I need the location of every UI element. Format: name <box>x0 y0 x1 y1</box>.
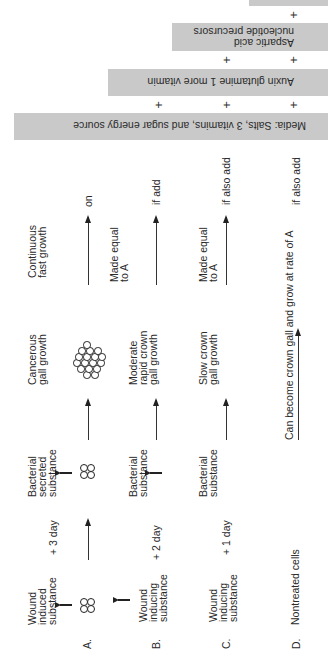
row-c-condition: if also add <box>221 157 231 205</box>
row-c-result-label: Slow crown gall growth <box>198 331 218 385</box>
text-line: fast growth <box>37 225 47 278</box>
plus-sign: + <box>287 99 300 111</box>
aspartic-box: Aspartic acid nucleotide precursors <box>172 23 328 51</box>
plus-sign: + <box>152 99 165 111</box>
row-b-outcome-label: Made equal to A <box>109 227 129 282</box>
row-c-letter: C. <box>221 639 231 650</box>
row-a-condition: on <box>83 195 93 207</box>
row-c-interval: + 1 day <box>221 520 231 555</box>
row-c-outcome-label: Made equal to A <box>198 227 218 282</box>
row-a-outcome-label: Continuous fast growth <box>27 225 47 278</box>
plus-sign: + <box>220 99 233 111</box>
aspartic-box-label-line2: nucleotide precursors <box>194 27 294 37</box>
text-line: substance <box>208 449 218 497</box>
text-line: substance <box>47 577 57 625</box>
text-line: substance <box>228 574 238 622</box>
tumor-cluster-icon <box>73 339 105 379</box>
media-box-label: Media: Salts, 3 vitamins, and sugar ener… <box>73 121 306 131</box>
row-b-letter: B. <box>151 639 161 649</box>
text-line: gall growth <box>37 334 47 385</box>
row-b-interval: + 2 day <box>151 525 161 560</box>
row-a-interval: + 3 day <box>48 520 58 555</box>
row-d-nontreated-label: Nontreated cells <box>290 549 300 625</box>
text-line: gall growth <box>148 331 158 385</box>
arrow-right-icon <box>226 400 227 440</box>
text-line: substance <box>158 574 168 622</box>
arrow-right-icon <box>226 217 227 285</box>
row-b-wound-label: Wound inducing substance <box>138 574 168 622</box>
text-line: gall growth <box>208 331 218 385</box>
wound-cells-icon <box>80 597 96 613</box>
arrow-right-icon <box>88 400 89 440</box>
row-a-wound-label: Wound induced substance <box>27 577 57 625</box>
row-b-condition: if add <box>151 179 161 205</box>
row-d-letter: D. <box>291 639 301 650</box>
arrow-right-icon <box>156 400 157 440</box>
row-c-wound-label: Wound inducing substance <box>208 574 238 622</box>
text-line: to A <box>208 227 218 282</box>
plus-sign: + <box>287 9 300 21</box>
arrow-right-icon <box>156 217 157 285</box>
media-box: Media: Salts, 3 vitamins, and sugar ener… <box>14 113 328 140</box>
row-c-bacterial-label: Bacterial substance <box>198 449 218 497</box>
plus-sign: + <box>287 54 300 66</box>
arrow-right-icon <box>88 217 89 285</box>
top-partial-box <box>249 0 328 6</box>
plus-sign: + <box>220 54 233 66</box>
text-line: to A <box>119 227 129 282</box>
row-b-result-label: Moderate rapid crown gall growth <box>128 331 158 385</box>
row-a-bacterial-label: Bacterial secreted substance <box>27 449 57 497</box>
row-d-span-text: Can become crown gall and grow at rate o… <box>284 230 294 440</box>
arrow-right-icon <box>298 330 299 440</box>
auxin-box-label: Auxin glutamine 1 more vitamin <box>148 77 294 87</box>
crown-gall-diagram: Media: Salts, 3 vitamins, and sugar ener… <box>0 0 328 671</box>
row-a-result-label: Cancerous gall growth <box>27 334 47 385</box>
bacteria-cells-icon <box>80 463 96 479</box>
aspartic-box-label-line1: Aspartic acid <box>234 38 294 48</box>
row-d-condition: if also add <box>291 157 301 205</box>
arrow-right-icon <box>88 520 89 560</box>
auxin-box: Auxin glutamine 1 more vitamin <box>108 69 328 96</box>
row-a-letter: A. <box>82 639 92 649</box>
